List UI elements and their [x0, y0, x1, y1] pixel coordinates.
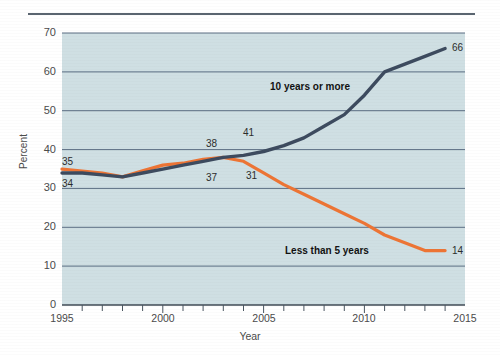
x-tick-1995: 1995 — [39, 312, 85, 324]
series-annotation-less-than-5-years: Less than 5 years — [285, 245, 369, 256]
point-label-66: 66 — [452, 42, 463, 53]
point-label-31: 31 — [246, 170, 257, 181]
y-tick-0: 0 — [30, 298, 56, 310]
x-tick-2010: 2010 — [341, 312, 387, 324]
point-label-35: 35 — [62, 156, 73, 167]
y-tick-20: 20 — [30, 220, 56, 232]
point-label-34: 34 — [62, 178, 73, 189]
y-tick-50: 50 — [30, 104, 56, 116]
point-label-38: 38 — [206, 138, 217, 149]
x-axis-title: Year — [0, 330, 500, 342]
y-tick-10: 10 — [30, 259, 56, 271]
y-tick-40: 40 — [30, 143, 56, 155]
x-tick-2015: 2015 — [442, 312, 488, 324]
plot-background — [62, 33, 465, 305]
series-annotation-10-years-or-more: 10 years or more — [270, 81, 350, 92]
point-label-41: 41 — [243, 127, 254, 138]
x-tick-2000: 2000 — [140, 312, 186, 324]
x-tick-2005: 2005 — [241, 312, 287, 324]
y-tick-60: 60 — [30, 65, 56, 77]
point-label-14: 14 — [452, 245, 463, 256]
y-axis-title: Percent — [18, 117, 29, 187]
chart-figure: 70 60 50 40 30 20 10 0 1995 2000 2005 20… — [0, 0, 500, 355]
point-label-37: 37 — [206, 172, 217, 183]
y-tick-30: 30 — [30, 181, 56, 193]
y-tick-70: 70 — [30, 26, 56, 38]
